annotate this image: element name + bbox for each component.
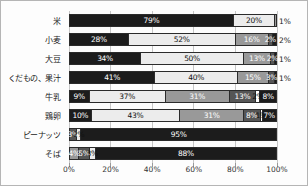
segment-value-label: 50% (184, 54, 200, 63)
bar-segment: 37% (89, 91, 165, 102)
bar-segment: 7% (262, 110, 276, 121)
stacked-bar: 4%5%3%88% (69, 147, 277, 160)
segment-value-label: 2% (73, 130, 84, 139)
category-label: そば (3, 144, 65, 163)
bar-segment: 34% (70, 53, 140, 64)
bar-segment: 31% (165, 91, 229, 102)
outside-value-label: 2% (279, 35, 291, 44)
category-label: 大豆 (3, 49, 65, 68)
segment-value-label: 16% (244, 35, 260, 44)
category-label: 米 (3, 11, 65, 30)
axis-tick (69, 163, 70, 167)
stacked-bar: 3%2%95% (69, 128, 277, 141)
category-label: 牛乳 (3, 87, 65, 106)
bar-segment: 2% (255, 91, 259, 102)
bar-segment: 43% (91, 110, 180, 121)
bar-segment: 41% (70, 72, 154, 83)
segment-value-label: 79% (143, 16, 159, 25)
segment-value-label: 13% (249, 54, 265, 63)
category-label: 鶏卵 (3, 106, 65, 125)
segment-value-label: 34% (97, 54, 113, 63)
bar-segment: 4% (70, 148, 78, 159)
outside-value-label: 1% (279, 54, 291, 63)
axis-tick (235, 163, 236, 167)
bar-segment: 2% (268, 34, 272, 45)
bar-segment: 3% (268, 72, 274, 83)
bar-segment: 2% (76, 129, 80, 140)
stacked-bar: 41%40%15%3%1% (69, 71, 277, 84)
stacked-bar: 9%37%31%13%2%8% (69, 90, 277, 103)
segment-value-label: 41% (104, 73, 120, 82)
bar-segment: 1% (260, 110, 262, 121)
stacked-bar: 10%43%31%8%1%7% (69, 109, 277, 122)
segment-value-label: 31% (189, 92, 205, 101)
segment-value-label: 8% (263, 92, 274, 101)
segment-value-label: 10% (72, 111, 88, 120)
segment-value-label: 20% (246, 16, 262, 25)
bar-segment: 20% (233, 15, 274, 26)
segment-value-label: 95% (171, 130, 187, 139)
outside-value-label: 1% (279, 73, 291, 82)
bar-segment: 15% (237, 72, 268, 83)
plot-area: 79%20%1%28%52%16%2%2%34%50%13%2%1%41%40%… (69, 11, 277, 163)
segment-value-label: 3% (266, 73, 277, 82)
stacked-bar-chart: 米小麦大豆くだもの、果汁牛乳鶏卵ピーナッツそば 79%20%1%28%52%16… (0, 0, 308, 186)
bar-segment: 16% (235, 34, 268, 45)
segment-value-label: 9% (74, 92, 85, 101)
segment-value-label: 7% (264, 111, 275, 120)
stacked-bar: 34%50%13%2%1% (69, 52, 277, 65)
bar-segment: 2% (270, 53, 274, 64)
segment-value-label: 31% (204, 111, 220, 120)
bar-segment: 52% (128, 34, 235, 45)
segment-value-label: 2% (265, 35, 276, 44)
bar-segment: 10% (70, 110, 91, 121)
segment-value-label: 28% (91, 35, 107, 44)
bar-segment: 9% (70, 91, 89, 102)
segment-value-label: 15% (245, 73, 261, 82)
segment-value-label: 3% (86, 149, 97, 158)
axis-tick (193, 163, 194, 167)
category-label: 小麦 (3, 30, 65, 49)
segment-value-label: 52% (174, 35, 190, 44)
bar-segment: 50% (140, 53, 243, 64)
axis-tick (152, 163, 153, 167)
outside-value-label: 1% (279, 16, 291, 25)
bar-segment (274, 15, 276, 26)
segment-value-label: 13% (235, 92, 251, 101)
segment-value-label: 2% (267, 54, 278, 63)
stacked-bar: 28%52%16%2%2% (69, 33, 277, 46)
bar-segment: 88% (95, 148, 276, 159)
category-label: くだもの、果汁 (3, 68, 65, 87)
bar-segment: 28% (70, 34, 128, 45)
category-label: ピーナッツ (3, 125, 65, 144)
bar-segment: 31% (179, 110, 243, 121)
stacked-bar: 79%20%1% (69, 14, 277, 27)
segment-value-label: 88% (178, 149, 194, 158)
segment-value-label: 40% (188, 73, 204, 82)
axis-tick (110, 163, 111, 167)
axis-tick (277, 163, 278, 167)
bar-segment: 79% (70, 15, 233, 26)
bar-segment: 3% (89, 148, 95, 159)
bar-segment: 8% (259, 91, 275, 102)
segment-value-label: 37% (119, 92, 135, 101)
bar-segment: 40% (154, 72, 236, 83)
segment-value-label: 43% (127, 111, 143, 120)
bar-segment: 95% (80, 129, 276, 140)
